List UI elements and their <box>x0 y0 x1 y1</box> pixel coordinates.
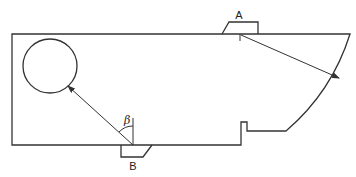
beam-a-arrow <box>241 35 339 78</box>
probe-b <box>121 145 152 157</box>
probe-a <box>222 22 258 34</box>
diagram-canvas: A B β <box>0 0 356 177</box>
angle-beta-label: β <box>123 114 130 127</box>
probe-b-label: B <box>129 160 136 172</box>
circular-hole <box>23 39 77 93</box>
probe-a-label: A <box>235 9 243 21</box>
